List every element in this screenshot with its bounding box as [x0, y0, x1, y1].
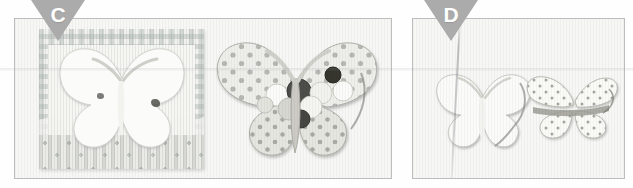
step-marker-c-label: C: [31, 2, 85, 28]
panel-d: [412, 18, 625, 179]
polka-dot-butterfly-assembly: [211, 33, 383, 165]
plain-white-butterfly: [431, 67, 535, 153]
checkered-paper-sheet-with-butterfly-cutout: [39, 29, 204, 169]
butterfly-cutout-hole: [51, 37, 193, 157]
step-marker-d-label: D: [424, 2, 478, 28]
figure-canvas: C D: [0, 0, 633, 188]
panel-c: [14, 18, 392, 179]
star-print-butterfly: [525, 71, 621, 143]
